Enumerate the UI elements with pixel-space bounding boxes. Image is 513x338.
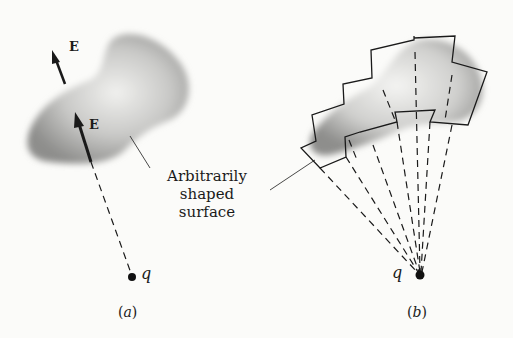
annotation-line-1: Arbitrarily bbox=[152, 167, 262, 185]
caption-a: (a) bbox=[118, 304, 137, 320]
field-arrow-outer bbox=[52, 50, 65, 84]
charge-label-a: q bbox=[141, 264, 151, 283]
field-label-inner: E bbox=[89, 117, 99, 132]
leader-line-b bbox=[270, 160, 315, 190]
dashed-ray-a bbox=[91, 162, 132, 276]
caption-a-letter: a bbox=[123, 304, 131, 320]
charge-b bbox=[416, 271, 425, 280]
field-label-outer: E bbox=[69, 39, 79, 54]
leader-line-a bbox=[130, 136, 150, 168]
charge-label-b: q bbox=[392, 263, 402, 282]
annotation-line-3: surface bbox=[152, 203, 262, 221]
surface-b bbox=[310, 39, 483, 155]
annotation-line-2: shaped bbox=[152, 185, 262, 203]
annotation-label: Arbitrarily shaped surface bbox=[152, 167, 262, 221]
surface-a bbox=[27, 34, 189, 163]
caption-b: (b) bbox=[407, 304, 427, 320]
charge-a bbox=[128, 273, 136, 281]
